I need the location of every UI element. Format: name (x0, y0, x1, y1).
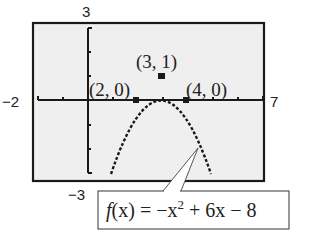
label-point-4-0: (4, 0) (186, 79, 227, 101)
label-ymin: −3 (68, 186, 85, 203)
viewing-window-frame (33, 23, 264, 181)
label-xmax: 7 (270, 93, 278, 110)
point-x-intercept-2 (133, 97, 139, 103)
label-point-3-1: (3, 1) (136, 51, 177, 73)
label-xmin: −2 (2, 93, 19, 110)
label-ymax: 3 (82, 3, 90, 20)
point-vertex-3-1 (158, 73, 165, 79)
graph-figure: (2, 0) (3, 1) (4, 0) 3 −3 −2 7 f(x) = −x… (0, 0, 313, 248)
label-point-2-0: (2, 0) (89, 79, 130, 101)
